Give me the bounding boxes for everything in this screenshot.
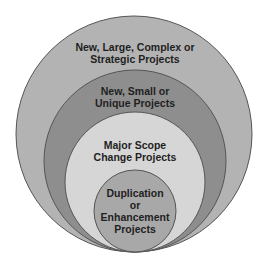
label-line: Major Scope [84,139,186,151]
label-line: Unique Projects [84,97,186,109]
label-line: Change Projects [84,151,186,163]
label-line: or [94,199,176,211]
label-large-complex-strategic: New, Large, Complex or Strategic Project… [64,41,206,65]
label-small-unique: New, Small or Unique Projects [84,85,186,109]
label-line: New, Small or [84,85,186,97]
label-line: Enhancement [94,211,176,223]
label-line: Projects [94,223,176,235]
label-major-scope-change: Major Scope Change Projects [84,139,186,163]
label-duplication-enhancement: Duplication or Enhancement Projects [94,187,176,235]
label-line: New, Large, Complex or [64,41,206,53]
label-line: Strategic Projects [64,53,206,65]
label-line: Duplication [94,187,176,199]
